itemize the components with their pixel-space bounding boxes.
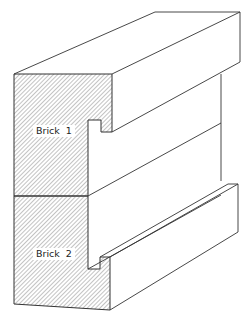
brick2-label: Brick 2: [33, 248, 75, 260]
brick-diagram: [0, 0, 252, 318]
brick1-label: Brick 1: [33, 125, 75, 137]
